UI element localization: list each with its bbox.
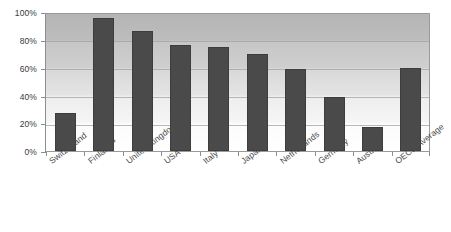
y-axis-tick-mark [41, 124, 45, 125]
y-axis-tick-mark [41, 69, 45, 70]
bar-chart: 100% 80% 60% 40% 20% 0% SwitzerlandFinla… [0, 0, 451, 232]
x-axis-tick-mark [161, 152, 162, 156]
y-axis-tick-label: 60% [0, 65, 37, 74]
x-axis-tick-mark [429, 152, 430, 156]
x-axis-tick-mark [315, 152, 316, 156]
bar [170, 45, 191, 151]
y-axis-tick-label: 80% [0, 37, 37, 46]
y-axis: 100% 80% 60% 40% 20% 0% [0, 0, 44, 232]
y-axis-tick-mark [41, 97, 45, 98]
bar [208, 47, 229, 151]
x-axis-tick-mark [123, 152, 124, 156]
y-axis-tick-label: 40% [0, 93, 37, 102]
x-axis-tick-mark [353, 152, 354, 156]
bars-layer [46, 14, 429, 151]
x-axis-tick-mark [392, 152, 393, 156]
y-axis-tick-label: 0% [0, 148, 37, 157]
y-axis-tick-mark [41, 13, 45, 14]
x-axis-tick-mark [276, 152, 277, 156]
bar [247, 54, 268, 151]
y-axis-tick-mark [41, 152, 45, 153]
x-axis-tick-mark [84, 152, 85, 156]
y-axis-tick-mark [41, 41, 45, 42]
bar [132, 31, 153, 151]
bar [93, 18, 114, 151]
y-axis-tick-label: 20% [0, 120, 37, 129]
x-axis-tick-mark [46, 152, 47, 156]
x-axis-tick-mark [238, 152, 239, 156]
y-axis-tick-label: 100% [0, 9, 37, 18]
plot-area [46, 13, 430, 152]
x-axis-tick-mark [200, 152, 201, 156]
